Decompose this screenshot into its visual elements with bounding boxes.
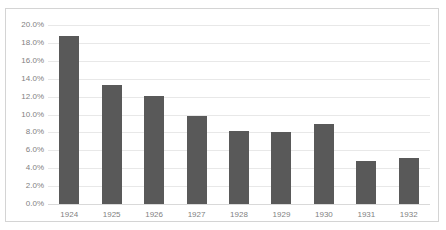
- x-axis-tick-label: 1931: [357, 211, 375, 219]
- y-axis-tick-label: 14.0%: [6, 75, 44, 83]
- bar-slot: [345, 25, 387, 204]
- y-axis-tick-label: 16.0%: [6, 57, 44, 65]
- x-axis-tick-label: 1926: [145, 211, 163, 219]
- bar[interactable]: [399, 158, 419, 204]
- chart-frame: 0.0%2.0%4.0%6.0%8.0%10.0%12.0%14.0%16.0%…: [5, 8, 439, 222]
- bar[interactable]: [102, 85, 122, 204]
- plot-area: 0.0%2.0%4.0%6.0%8.0%10.0%12.0%14.0%16.0%…: [48, 25, 430, 204]
- bar[interactable]: [356, 161, 376, 204]
- bar[interactable]: [144, 96, 164, 204]
- bar[interactable]: [314, 124, 334, 204]
- gridline: [48, 204, 430, 205]
- bar[interactable]: [229, 131, 249, 204]
- bar-slot: [388, 25, 430, 204]
- bar[interactable]: [59, 36, 79, 204]
- y-axis-tick-label: 20.0%: [6, 21, 44, 29]
- x-axis-tick-label: 1924: [60, 211, 78, 219]
- y-axis-tick-label: 0.0%: [6, 200, 44, 208]
- y-axis-tick-label: 2.0%: [6, 182, 44, 190]
- bar-slot: [218, 25, 260, 204]
- y-axis-tick-label: 10.0%: [6, 111, 44, 119]
- x-axis-tick-label: 1927: [188, 211, 206, 219]
- bar-series: [48, 25, 430, 204]
- y-axis-tick-label: 8.0%: [6, 128, 44, 136]
- y-axis-tick-label: 12.0%: [6, 93, 44, 101]
- bar-slot: [48, 25, 90, 204]
- bar-slot: [303, 25, 345, 204]
- bar[interactable]: [271, 132, 291, 204]
- bar-slot: [175, 25, 217, 204]
- x-axis-tick-label: 1929: [273, 211, 291, 219]
- x-axis-tick-label: 1925: [103, 211, 121, 219]
- y-axis-tick-label: 18.0%: [6, 39, 44, 47]
- bar-slot: [90, 25, 132, 204]
- bar[interactable]: [187, 116, 207, 204]
- bar-slot: [133, 25, 175, 204]
- y-axis-tick-label: 4.0%: [6, 164, 44, 172]
- x-axis-tick-label: 1932: [400, 211, 418, 219]
- x-axis-tick-label: 1930: [315, 211, 333, 219]
- y-axis-tick-label: 6.0%: [6, 146, 44, 154]
- x-axis-tick-label: 1928: [230, 211, 248, 219]
- bar-slot: [260, 25, 302, 204]
